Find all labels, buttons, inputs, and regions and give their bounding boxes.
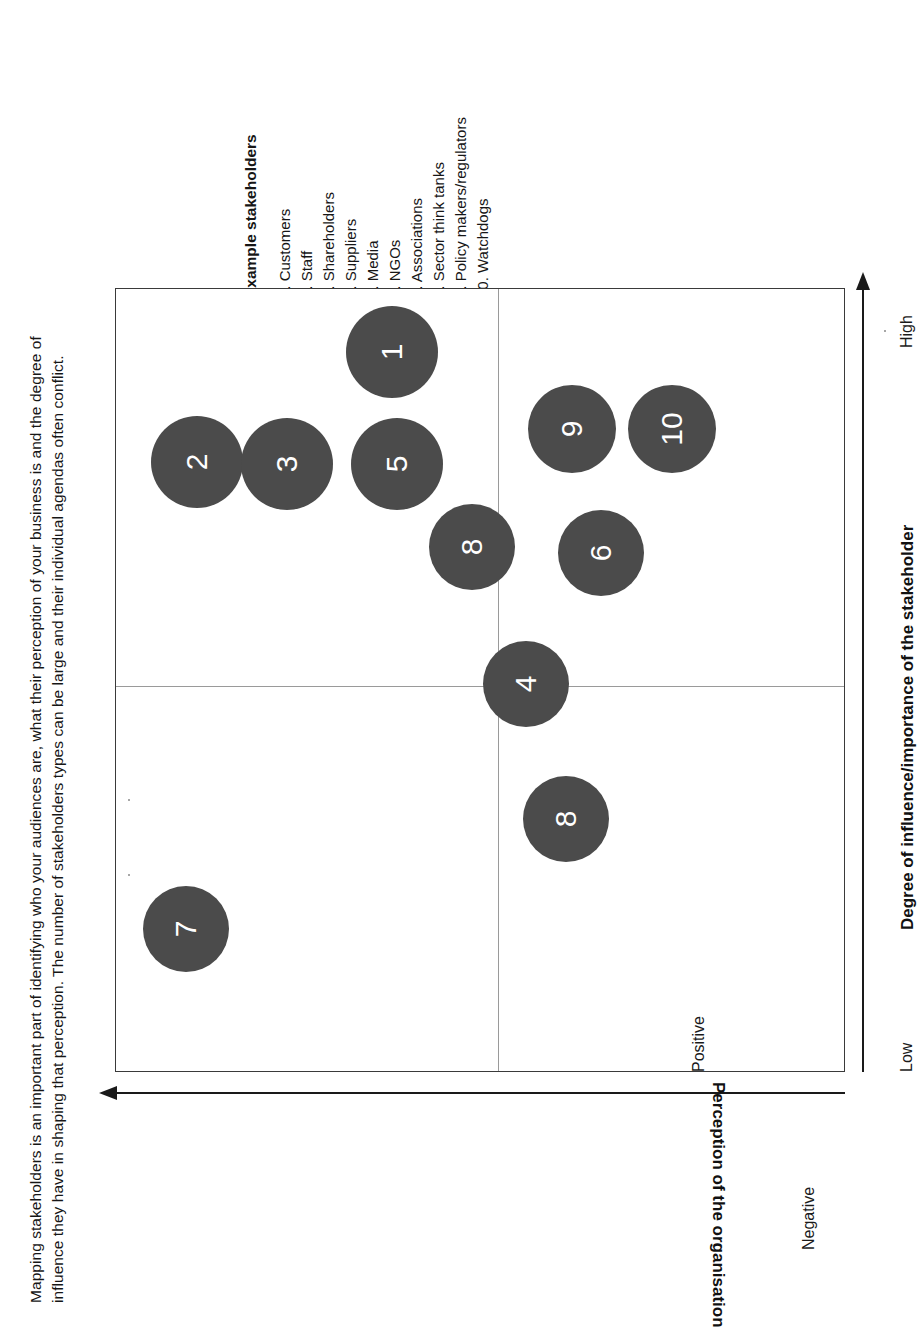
x-axis-tick-high: High [898, 315, 916, 348]
stakeholder-bubble-label: 6 [584, 545, 618, 562]
y-axis-tick-positive: Positive [690, 1016, 708, 1072]
stakeholder-bubble-label: 2 [180, 454, 214, 471]
speck-mark [128, 874, 130, 876]
x-axis-title: Degree of influence/importance of the st… [898, 525, 918, 930]
y-axis-title: Perception of the organisation [708, 1082, 728, 1328]
stakeholder-bubble-label: 5 [380, 456, 414, 473]
stakeholder-bubble: 8 [429, 504, 515, 590]
stakeholder-bubble-label: 7 [169, 921, 203, 938]
stakeholder-bubble-label: 10 [655, 412, 689, 445]
legend-item-3: 3. Shareholders [320, 192, 337, 298]
y-axis-line [115, 1092, 845, 1094]
y-axis-arrow-icon [99, 1086, 117, 1100]
caption-line-1: Mapping stakeholders is an important par… [26, 336, 45, 1303]
legend-item-1: 1. Customers [276, 209, 293, 298]
legend: Example stakeholders 1. Customers 2. Sta… [236, 26, 536, 306]
x-axis-line [862, 288, 864, 1072]
stakeholder-bubble: 4 [483, 641, 569, 727]
legend-heading: Example stakeholders [242, 134, 260, 298]
caption-line-2: influence they have in shaping that perc… [48, 355, 67, 1303]
y-axis-tick-negative: Negative [800, 1187, 818, 1250]
stakeholder-bubble: 7 [143, 886, 229, 972]
stakeholder-bubble: 9 [528, 385, 616, 473]
stakeholder-bubble-label: 1 [375, 344, 409, 361]
stakeholder-bubble-label: 8 [455, 539, 489, 556]
stakeholder-bubble-label: 9 [555, 421, 589, 438]
legend-item-10: 10. Watchdogs [474, 199, 491, 299]
quadrant-divider-horizontal [116, 686, 844, 687]
stakeholder-bubble: 3 [241, 418, 333, 510]
legend-item-8: 8. Sector think tanks [430, 162, 447, 298]
speck-mark [884, 330, 886, 332]
stakeholder-matrix-plot: 123591086487 [115, 288, 845, 1072]
x-axis-tick-low: Low [898, 1043, 916, 1072]
legend-item-7: 7. Associations [408, 198, 425, 298]
stakeholder-bubble-label: 8 [549, 811, 583, 828]
figure-caption: Mapping stakeholders is an important par… [0, 0, 70, 1311]
stakeholder-bubble: 6 [558, 510, 644, 596]
stakeholder-bubble-label: 4 [509, 676, 543, 693]
speck-mark [128, 799, 130, 801]
stakeholder-bubble: 10 [628, 385, 716, 473]
legend-item-9: 9. Policy makers/regulators [452, 117, 469, 298]
x-axis-arrow-icon [856, 272, 870, 290]
stakeholder-bubble: 2 [151, 416, 243, 508]
stakeholder-bubble: 5 [351, 418, 443, 510]
legend-item-4: 4. Suppliers [342, 219, 359, 298]
stakeholder-bubble: 8 [523, 776, 609, 862]
stakeholder-bubble-label: 3 [270, 456, 304, 473]
stakeholder-bubble: 1 [346, 306, 438, 398]
